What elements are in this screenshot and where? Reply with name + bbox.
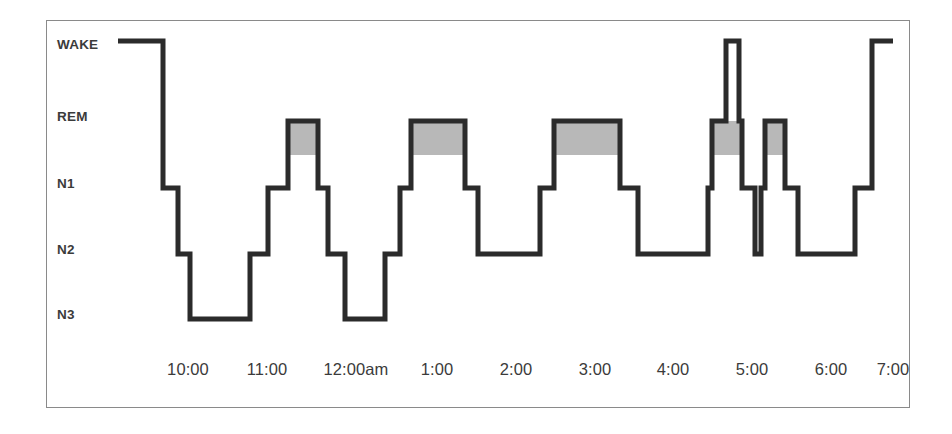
x-tick-label-2300: 11:00 <box>247 360 288 379</box>
x-tick-label-0500: 5:00 <box>736 360 769 379</box>
y-tick-label-n2: N2 <box>57 242 75 257</box>
x-tick-label-0100: 1:00 <box>421 360 454 379</box>
x-tick-label-0000: 12:00am <box>324 360 389 379</box>
x-tick-label-0700: 7:00 <box>877 360 910 379</box>
x-tick-label-2200: 10:00 <box>167 360 209 379</box>
x-tick-label-0300: 3:00 <box>579 360 612 379</box>
x-tick-label-0400: 4:00 <box>657 360 690 379</box>
y-tick-label-rem: REM <box>57 109 88 124</box>
x-tick-label-0200: 2:00 <box>500 360 533 379</box>
y-tick-label-n1: N1 <box>57 176 75 191</box>
y-tick-label-n3: N3 <box>57 307 75 322</box>
x-tick-label-0600: 6:00 <box>815 360 848 379</box>
chart-frame <box>46 20 910 408</box>
y-tick-label-wake: WAKE <box>57 37 98 52</box>
hypnogram-screenshot: WAKE REM N1 N2 N3 10:00 11:00 12:00am 1:… <box>0 0 952 434</box>
